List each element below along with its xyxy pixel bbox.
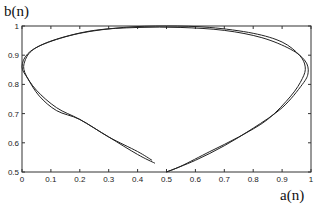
x-axis-label: a(n) bbox=[280, 187, 304, 204]
trajectory-2-line bbox=[22, 26, 305, 172]
y-tick-label: 1 bbox=[15, 22, 20, 31]
x-tick-label: 0.9 bbox=[277, 175, 289, 184]
phase-plot: 00.10.20.30.40.50.60.70.80.910.50.60.70.… bbox=[0, 0, 317, 206]
y-tick-label: 0.9 bbox=[8, 51, 20, 60]
plot-series bbox=[22, 26, 308, 172]
x-tick-label: 0.5 bbox=[161, 175, 173, 184]
x-tick-label: 0.6 bbox=[190, 175, 202, 184]
x-tick-label: 0 bbox=[20, 175, 25, 184]
x-tick-label: 0.3 bbox=[103, 175, 115, 184]
x-tick-label: 0.7 bbox=[219, 175, 231, 184]
y-tick-label: 0.5 bbox=[8, 168, 20, 177]
y-tick-label: 0.6 bbox=[8, 139, 20, 148]
x-tick-label: 0.4 bbox=[132, 175, 144, 184]
y-tick-label: 0.7 bbox=[8, 110, 20, 119]
x-tick-label: 0.1 bbox=[45, 175, 57, 184]
x-tick-label: 0.2 bbox=[74, 175, 86, 184]
trajectory-1-line bbox=[24, 27, 309, 172]
plot-frame bbox=[22, 26, 311, 172]
y-axis-label: b(n) bbox=[4, 3, 29, 20]
y-tick-label: 0.8 bbox=[8, 80, 20, 89]
x-tick-label: 0.8 bbox=[248, 175, 260, 184]
x-tick-label: 1 bbox=[309, 175, 314, 184]
plot-axes: 00.10.20.30.40.50.60.70.80.910.50.60.70.… bbox=[8, 22, 314, 184]
